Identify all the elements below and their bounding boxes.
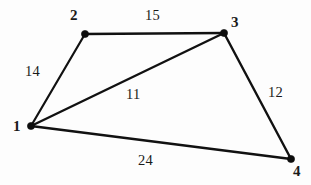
edge-weight-label-1-3: 11 xyxy=(126,87,140,102)
vertex-label-2: 2 xyxy=(70,8,78,23)
edge-weight-label-1-2: 14 xyxy=(25,64,40,79)
graph-canvas xyxy=(0,0,311,185)
vertex-label-4: 4 xyxy=(293,164,301,179)
graph-vertex-3 xyxy=(220,29,227,36)
edges-group xyxy=(31,33,291,159)
graph-vertex-4 xyxy=(287,155,294,162)
edge-weight-label-1-4: 24 xyxy=(138,153,153,168)
graph-edge-2-3 xyxy=(85,33,224,34)
vertex-label-1: 1 xyxy=(13,119,21,134)
vertex-label-3: 3 xyxy=(231,15,239,30)
edge-weight-label-2-3: 15 xyxy=(145,8,160,23)
edge-weight-label-3-4: 12 xyxy=(268,85,283,100)
graph-diagram: 14151112241234 xyxy=(0,0,311,185)
graph-vertex-1 xyxy=(27,122,34,129)
graph-edge-1-4 xyxy=(31,126,291,159)
graph-vertex-2 xyxy=(81,30,88,37)
graph-edge-1-3 xyxy=(31,33,224,126)
